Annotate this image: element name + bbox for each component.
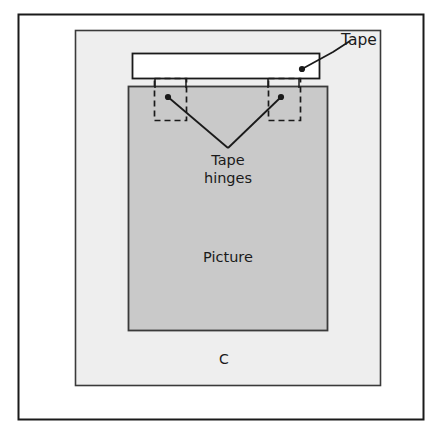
- tape-label: Tape: [340, 31, 377, 49]
- tape-hinges-label-line2: hinges: [204, 170, 252, 186]
- figure-container: Tape Tape hinges Picture C . . . . . . .…: [0, 0, 442, 436]
- figure-letter-label: C: [219, 351, 229, 367]
- picture-label: Picture: [203, 249, 253, 265]
- hinge-leader-dot-right: [278, 94, 284, 100]
- tape-strip: [133, 54, 320, 79]
- figure-diagram: Tape Tape hinges Picture C: [0, 0, 442, 436]
- hinge-leader-dot-left: [165, 94, 171, 100]
- picture-panel: [129, 87, 328, 331]
- page-bottom-cut-text: . . . . . . .. . . . . . .. . . . .: [0, 422, 442, 436]
- tape-leader-dot: [299, 66, 305, 72]
- tape-hinges-label-line1: Tape: [210, 152, 245, 168]
